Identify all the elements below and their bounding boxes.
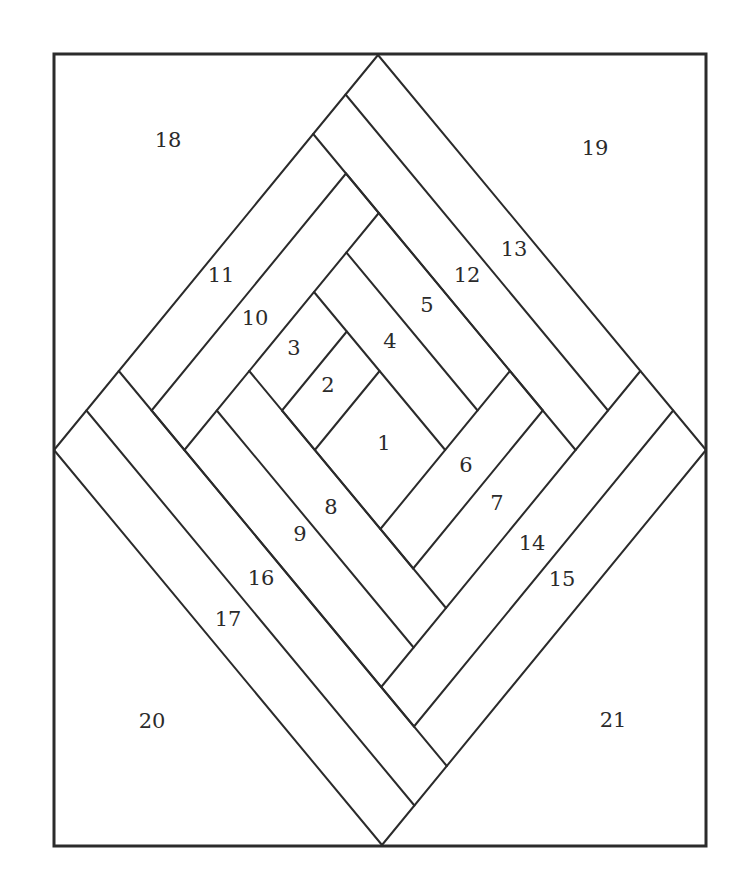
piece-label-3: 3 (287, 336, 300, 360)
piece-label-2: 2 (321, 373, 334, 397)
quilt-block-diagram: 123456789101112131415161718192021 (0, 0, 751, 889)
piece-label-4: 4 (383, 329, 396, 353)
piece-label-13: 13 (501, 237, 528, 261)
piece-label-8: 8 (324, 495, 337, 519)
seam-line (86, 411, 414, 806)
seam-line (382, 450, 706, 845)
piece-label-21: 21 (600, 708, 627, 732)
piece-label-19: 19 (582, 136, 609, 160)
piece-label-12: 12 (454, 263, 481, 287)
piece-label-7: 7 (490, 491, 503, 515)
seam-line (414, 411, 673, 727)
piece-label-6: 6 (459, 453, 472, 477)
piece-label-20: 20 (139, 709, 166, 733)
seam-line (346, 95, 608, 411)
piece-label-1: 1 (377, 431, 390, 455)
piece-label-10: 10 (242, 306, 269, 330)
piece-label-5: 5 (420, 293, 433, 317)
seam-line (378, 55, 706, 450)
seam-line (119, 371, 447, 766)
seam-line (184, 213, 378, 450)
piece-label-16: 16 (248, 566, 275, 590)
piece-label-11: 11 (208, 263, 235, 287)
piece-label-18: 18 (155, 128, 182, 152)
piece-label-17: 17 (215, 607, 242, 631)
piece-label-15: 15 (549, 567, 576, 591)
seam-line (152, 174, 346, 411)
piece-label-9: 9 (293, 522, 306, 546)
seam-line (282, 411, 446, 609)
piece-label-14: 14 (519, 531, 546, 555)
